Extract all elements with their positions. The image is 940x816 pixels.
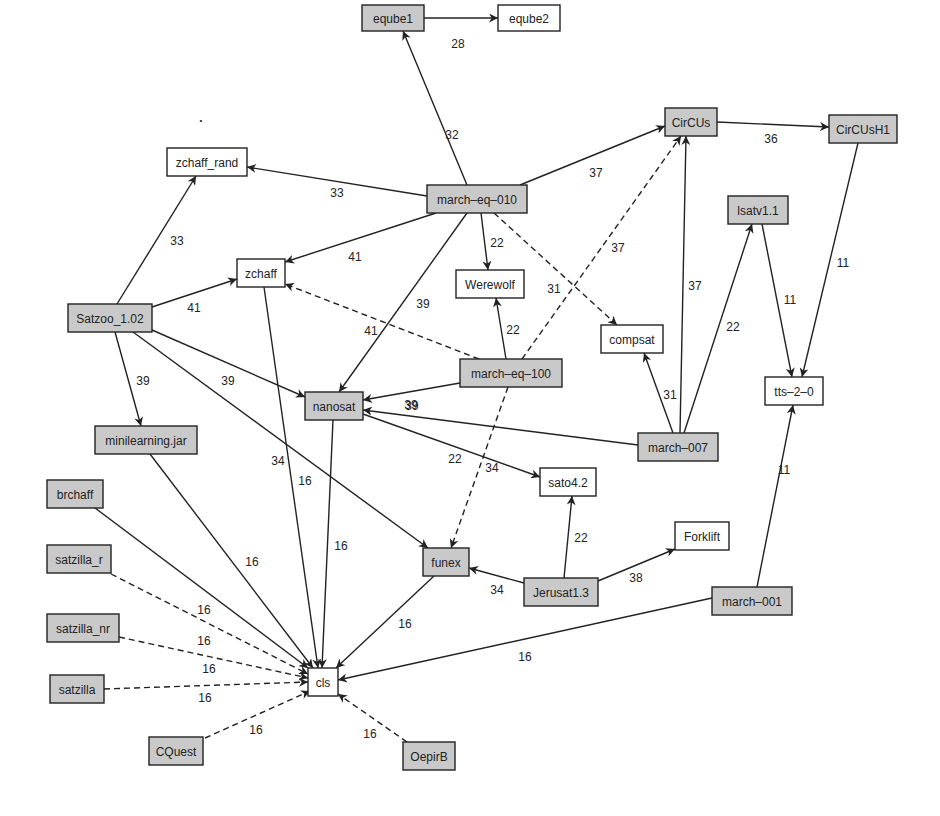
node-cls: cls bbox=[308, 668, 338, 696]
edge-label: 22 bbox=[726, 320, 740, 334]
node-march-007: march–007 bbox=[638, 433, 718, 461]
edge-line bbox=[802, 143, 858, 377]
node-tts-2-0: tts–2–0 bbox=[765, 377, 823, 405]
edge-line bbox=[680, 136, 686, 433]
edge-nanosat-to-cls bbox=[322, 420, 333, 668]
edge-march-007-to-CirCUs bbox=[680, 136, 686, 433]
node-march-eq-010: march–eq–010 bbox=[427, 185, 527, 213]
edge-line bbox=[403, 31, 467, 185]
edge-line bbox=[338, 598, 712, 680]
edge-label: 33 bbox=[170, 234, 184, 248]
edge-label: 31 bbox=[663, 388, 677, 402]
edge-march-eq-010-to-compsat bbox=[494, 213, 617, 325]
edge-line bbox=[339, 213, 467, 392]
node-label: nanosat bbox=[313, 400, 356, 414]
edge-label: 39 bbox=[221, 374, 235, 388]
node-label: lsatv1.1 bbox=[737, 204, 779, 218]
edge-label: 37 bbox=[688, 279, 702, 293]
edge-march-eq-010-to-nanosat bbox=[339, 213, 467, 392]
edge-label: 22 bbox=[448, 452, 462, 466]
node-label: march–eq–010 bbox=[437, 193, 517, 207]
edge-label: 34 bbox=[490, 583, 504, 597]
node-minilearning-jar: minilearning.jar bbox=[95, 426, 197, 454]
edge-line bbox=[564, 496, 572, 578]
edge-label: 16 bbox=[298, 474, 312, 488]
node-nanosat: nanosat bbox=[305, 392, 363, 420]
node-satzoo-1-02: Satzoo_1.02 bbox=[68, 304, 152, 332]
node-label: eqube2 bbox=[509, 12, 549, 26]
edge-line bbox=[717, 122, 829, 127]
edge-label: 33 bbox=[330, 186, 344, 200]
nodes-layer: eqube1eqube2CirCUsCirCUsH1zchaff_randmar… bbox=[47, 5, 897, 770]
edge-Satzoo_1.02-to-zchaff_rand bbox=[117, 176, 196, 304]
node-march-001: march–001 bbox=[712, 587, 792, 615]
node-zchaff-rand: zchaff_rand bbox=[167, 148, 247, 176]
node-cquest: CQuest bbox=[149, 737, 203, 765]
edge-satzilla-to-cls bbox=[104, 682, 308, 689]
node-jerusat1-3: Jerusat1.3 bbox=[524, 578, 598, 606]
edge-label: 32 bbox=[445, 128, 459, 142]
edge-line bbox=[757, 405, 793, 587]
edge-label: 38 bbox=[629, 571, 643, 585]
edge-label: 16 bbox=[363, 727, 377, 741]
edge-Jerusat1.3-to-funex bbox=[469, 568, 524, 583]
edge-CirCUsH1-to-tts-2-0 bbox=[802, 143, 858, 377]
node-march-eq-100: march–eq–100 bbox=[460, 359, 562, 387]
edge-label: 31 bbox=[547, 282, 561, 296]
edge-label: 34 bbox=[271, 454, 285, 468]
edge-label: 36 bbox=[764, 132, 778, 146]
node-brchaff: brchaff bbox=[47, 480, 103, 508]
node-label: brchaff bbox=[57, 488, 94, 502]
node-label: CirCUsH1 bbox=[836, 123, 890, 137]
edge-line bbox=[481, 213, 488, 270]
edge-label: 22 bbox=[490, 236, 504, 250]
edge-label: 39 bbox=[136, 374, 150, 388]
edge-label: 41 bbox=[187, 301, 201, 315]
node-label: satzilla_nr bbox=[56, 622, 110, 636]
edge-label: 22 bbox=[574, 531, 588, 545]
node-werewolf: Werewolf bbox=[456, 270, 524, 298]
edge-line bbox=[104, 682, 308, 689]
edge-label: 11 bbox=[837, 256, 850, 270]
edge-Jerusat1.3-to-sato4.2 bbox=[564, 496, 572, 578]
edge-label: 41 bbox=[348, 250, 362, 264]
edge-march-001-to-cls bbox=[338, 598, 712, 680]
node-label: minilearning.jar bbox=[105, 434, 186, 448]
node-label: satzilla_r bbox=[55, 553, 102, 567]
edge-march-007-to-lsatv1.1 bbox=[684, 224, 752, 433]
node-label: cls bbox=[316, 676, 331, 690]
edge-line bbox=[117, 176, 196, 304]
node-lsatv1-1: lsatv1.1 bbox=[728, 196, 788, 224]
edge-satzilla_r-to-cls bbox=[111, 574, 308, 674]
edge-labels-layer: 2832373633334141223139412237393437223139… bbox=[136, 37, 849, 741]
node-label: CirCUs bbox=[672, 116, 711, 130]
edge-label: 34 bbox=[485, 461, 499, 475]
node-satzilla-nr: satzilla_nr bbox=[47, 614, 119, 642]
edge-label: 16 bbox=[197, 603, 211, 617]
node-circush1: CirCUsH1 bbox=[829, 115, 897, 143]
edge-label: 39 bbox=[405, 399, 419, 413]
edge-line bbox=[496, 298, 506, 359]
node-label: funex bbox=[431, 556, 460, 570]
edge-march-eq-100-to-Werewolf bbox=[496, 298, 506, 359]
node-eqube2: eqube2 bbox=[498, 5, 560, 31]
node-label: tts–2–0 bbox=[774, 385, 814, 399]
edge-label: 16 bbox=[202, 662, 216, 676]
solver-dependency-graph: 2832373633334141223139412237393437223139… bbox=[0, 0, 940, 816]
edge-label: 37 bbox=[611, 241, 625, 255]
edge-march-001-to-tts-2-0 bbox=[757, 405, 793, 587]
edge-label: 16 bbox=[245, 555, 259, 569]
edge-march-eq-100-to-zchaff bbox=[285, 284, 479, 359]
node-label: sato4.2 bbox=[548, 476, 588, 490]
edge-march-eq-100-to-funex bbox=[451, 387, 508, 548]
edge-label: 11 bbox=[784, 293, 797, 307]
node-label: zchaff_rand bbox=[176, 156, 239, 170]
edge-line bbox=[363, 414, 540, 477]
node-compsat: compsat bbox=[601, 325, 663, 353]
edge-line bbox=[684, 224, 752, 433]
edge-label: 39 bbox=[416, 297, 430, 311]
edge-line bbox=[451, 387, 508, 548]
edge-label: 37 bbox=[589, 166, 603, 180]
node-label: CQuest bbox=[156, 745, 197, 759]
node-sato4-2: sato4.2 bbox=[540, 468, 596, 496]
